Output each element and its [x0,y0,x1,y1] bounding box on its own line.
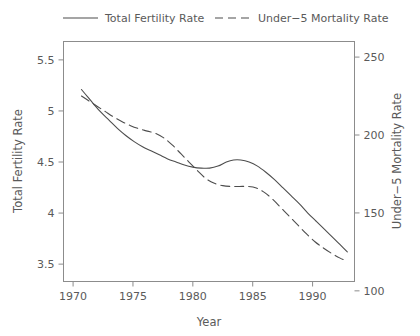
y-tick-label-right: 100 [364,285,385,298]
y-axis-right-title: Under−5 Mortality Rate [390,93,404,229]
y-tick-label-left: 4 [48,207,55,220]
chart-container: Total Fertility Rate Under−5 Mortality R… [0,0,420,336]
x-axis-title: Year [196,315,222,329]
x-tick-label: 1970 [59,290,87,303]
chart-legend: Total Fertility Rate Under−5 Mortality R… [63,12,389,25]
y-tick-label-left: 5.5 [37,54,55,67]
chart-series-group [81,90,347,262]
series-line-total-fertility-rate [81,90,347,252]
x-tick-label: 1975 [119,290,147,303]
x-tick-label: 1990 [299,290,327,303]
y-tick-label-right: 200 [364,129,385,142]
x-tick-label: 1985 [239,290,267,303]
x-axis: 19701975198019851990 [59,282,327,303]
y-axis-left: 3.544.555.5 [37,54,64,271]
y-tick-label-left: 3.5 [37,258,55,271]
y-tick-label-right: 150 [364,207,385,220]
y-tick-label-left: 4.5 [37,156,55,169]
chart-svg: Total Fertility Rate Under−5 Mortality R… [0,0,420,336]
legend-label-under-5-mortality-rate: Under−5 Mortality Rate [258,12,389,25]
x-tick-label: 1980 [179,290,207,303]
y-axis-right: 100150200250 [355,51,385,298]
series-line-under-5-mortality-rate [81,96,347,261]
y-axis-left-title: Total Fertility Rate [11,109,25,214]
y-tick-label-left: 5 [48,105,55,118]
legend-label-total-fertility-rate: Total Fertility Rate [104,12,204,25]
y-tick-label-right: 250 [364,51,385,64]
plot-frame [64,42,355,282]
